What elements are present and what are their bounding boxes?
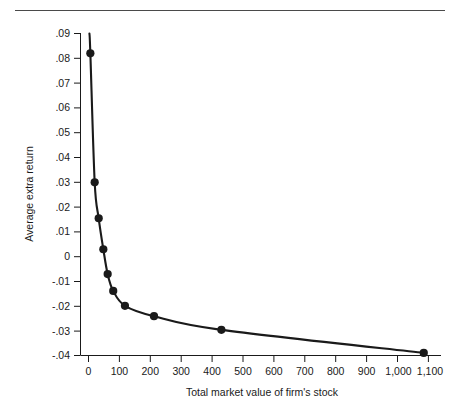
x-tick-label: 600 <box>265 365 283 377</box>
y-tick-label: 0 <box>64 250 70 262</box>
y-tick-label: -.01 <box>52 275 70 287</box>
x-tick-label: 300 <box>172 365 190 377</box>
y-tick-label: .09 <box>55 27 70 39</box>
y-tick-label: .03 <box>55 176 70 188</box>
y-tick-label: .08 <box>55 52 70 64</box>
x-tick-label: 0 <box>86 365 92 377</box>
x-tick-label: 100 <box>111 365 129 377</box>
x-axis-ticks <box>89 356 429 362</box>
y-tick-label: -.04 <box>52 349 70 361</box>
x-axis-tick-labels: 0 100 200 300 400 500 600 700 800 900 1,… <box>86 365 444 377</box>
y-tick-label: .02 <box>55 201 70 213</box>
x-tick-label: 800 <box>327 365 345 377</box>
axes <box>81 33 442 356</box>
y-tick-label: -.03 <box>52 325 70 337</box>
y-axis-title: Average extra return <box>23 146 35 242</box>
x-tick-label: 400 <box>203 365 221 377</box>
data-point <box>420 349 428 357</box>
data-point <box>86 49 94 57</box>
x-tick-label: 1,100 <box>417 365 443 377</box>
data-point <box>121 302 129 310</box>
data-point <box>150 312 158 320</box>
data-series-group <box>86 34 428 358</box>
y-tick-label: -.02 <box>52 300 70 312</box>
x-tick-label: 900 <box>358 365 376 377</box>
data-point <box>217 326 225 334</box>
data-point <box>95 214 103 222</box>
data-point <box>109 287 117 295</box>
x-axis-title: Total market value of firm's stock <box>186 386 339 398</box>
x-tick-label: 500 <box>234 365 252 377</box>
data-point <box>104 270 112 278</box>
data-curve <box>89 34 423 353</box>
x-tick-label: 1,000 <box>385 365 411 377</box>
data-point <box>99 245 107 253</box>
y-tick-label: .01 <box>55 225 70 237</box>
y-tick-label: .04 <box>55 151 70 163</box>
y-tick-label: .07 <box>55 77 70 89</box>
x-tick-label: 200 <box>142 365 160 377</box>
y-tick-label: .06 <box>55 101 70 113</box>
x-tick-label: 700 <box>296 365 314 377</box>
y-tick-label: .05 <box>55 126 70 138</box>
y-axis-tick-labels: .09 .08 .07 .06 .05 .04 .03 .02 .01 0 -.… <box>52 27 70 361</box>
chart-svg: .09 .08 .07 .06 .05 .04 .03 .02 .01 0 -.… <box>0 0 462 411</box>
data-point <box>91 178 99 186</box>
figure-container: .09 .08 .07 .06 .05 .04 .03 .02 .01 0 -.… <box>0 0 462 411</box>
y-axis-ticks <box>74 34 80 356</box>
